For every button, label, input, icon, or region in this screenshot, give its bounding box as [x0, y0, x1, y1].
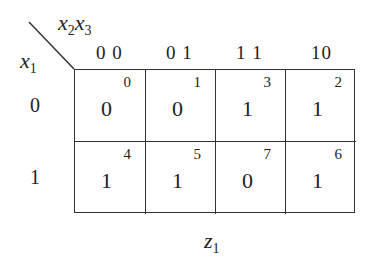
minterm-index: 7	[264, 146, 272, 163]
minterm-index: 0	[124, 74, 132, 91]
kmap-cell-m3: 13	[216, 70, 286, 142]
cell-value: 0	[172, 96, 183, 122]
row-header-0: 0	[30, 94, 40, 117]
kmap-cell-m4: 14	[75, 142, 146, 214]
minterm-index: 4	[124, 146, 132, 163]
cell-value: 0	[101, 96, 112, 122]
kmap-cell-m1: 01	[146, 70, 216, 142]
cell-value: 1	[101, 168, 112, 194]
row-header-1: 1	[30, 166, 40, 189]
column-header-11: 1 1	[236, 42, 263, 64]
kmap-cell-m0: 00	[75, 70, 146, 142]
minterm-index: 6	[335, 146, 343, 163]
column-header-01: 0 1	[166, 42, 193, 64]
cell-value: 1	[312, 96, 323, 122]
column-header-00: 0 0	[96, 42, 123, 64]
output-function-label: z1	[204, 228, 220, 257]
cell-value: 1	[172, 168, 183, 194]
kmap-cell-m7: 07	[216, 142, 286, 214]
row-variable-label: x1	[20, 48, 37, 77]
column-header-10: 10	[311, 42, 332, 64]
minterm-index: 2	[335, 74, 343, 91]
minterm-index: 1	[194, 74, 202, 91]
minterm-index: 5	[194, 146, 202, 163]
cell-value: 1	[312, 168, 323, 194]
kmap-cell-m2: 12	[286, 70, 356, 142]
column-variables-label: x2x3	[58, 10, 92, 39]
cell-value: 1	[242, 96, 253, 122]
kmap-cell-m5: 15	[146, 142, 216, 214]
minterm-index: 3	[264, 74, 272, 91]
karnaugh-map-grid: 00 01 13 12 14 15 07 16	[74, 69, 355, 213]
cell-value: 0	[242, 168, 253, 194]
kmap-cell-m6: 16	[286, 142, 356, 214]
